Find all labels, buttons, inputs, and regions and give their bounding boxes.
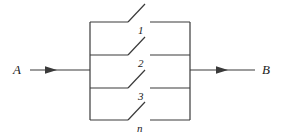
branch-n-switch-blade (128, 102, 145, 120)
switch-network-diagram: left bus ===== --> B ===== --> (0, 0, 282, 137)
branch-3-switch-blade (128, 70, 145, 88)
switch-branch-1 (90, 4, 190, 22)
output-lead-group (190, 66, 255, 74)
switch-branch-2 (90, 37, 190, 55)
branch-label-2: 2 (138, 58, 144, 69)
input-lead-group (30, 66, 90, 74)
input-terminal-label: A (13, 63, 21, 76)
switch-branch-n (90, 102, 190, 120)
branch-1-switch-blade (128, 4, 145, 22)
branch-label-n: n (137, 123, 143, 134)
switch-branch-3 (90, 70, 190, 88)
output-arrowhead-icon (216, 66, 228, 74)
branch-label-1: 1 (138, 25, 144, 36)
input-arrowhead-icon (45, 66, 57, 74)
branch-2-switch-blade (128, 37, 145, 55)
branch-label-3: 3 (138, 91, 144, 102)
output-terminal-label: B (262, 63, 270, 76)
